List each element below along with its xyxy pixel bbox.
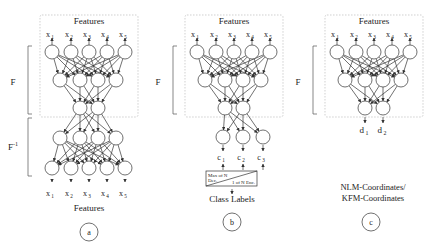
output-label-d2: d 2 <box>378 125 387 136</box>
bracket-F-inverse <box>28 118 32 176</box>
bracket-F-inverse-label: F-1 <box>8 141 18 152</box>
panel-label-b: b <box>230 218 234 227</box>
features-title: Features <box>74 16 105 26</box>
neuron-node <box>64 161 78 175</box>
panel-label-a: a <box>87 228 91 237</box>
bracket-F <box>173 46 177 114</box>
neuron-node <box>209 45 223 59</box>
neuron-node <box>218 101 232 115</box>
input-label-x5: x 5 <box>264 30 272 40</box>
neuron-node <box>330 45 344 59</box>
class-label-c3: c 3 <box>257 153 265 163</box>
neuron-node <box>64 45 78 59</box>
output-label-x3: x 3 <box>83 189 91 199</box>
neuron-node <box>73 73 87 87</box>
neuron-node <box>349 45 363 59</box>
neuron-node <box>358 73 372 87</box>
neuron-node <box>358 101 372 115</box>
neuron-node <box>376 73 390 87</box>
neuron-node <box>263 45 277 59</box>
input-label-x5: x 5 <box>404 30 412 40</box>
neuron-node <box>216 130 230 144</box>
one-of-n-enc-label: 1 of N Enc. <box>232 180 255 185</box>
neuron-node <box>100 161 114 175</box>
neuron-node <box>367 45 381 59</box>
neuron-node <box>100 45 114 59</box>
neuron-node <box>53 73 67 87</box>
neuron-node <box>109 131 123 145</box>
neuron-node <box>385 45 399 59</box>
input-label-x4: x 4 <box>386 30 394 40</box>
neuron-node <box>190 45 204 59</box>
features-bottom-title: Features <box>74 203 105 213</box>
nlm-coordinates-label: NLM-Coordinates/ <box>340 182 406 192</box>
input-label-x4: x 4 <box>101 30 109 40</box>
neuron-node <box>403 45 417 59</box>
input-label-x1: x 1 <box>191 30 199 40</box>
bracket-F <box>28 46 32 114</box>
neuron-node <box>245 45 259 59</box>
bracket-F-label: F <box>155 77 160 87</box>
panel-label-c: c <box>369 218 373 227</box>
bracket-F <box>313 46 317 114</box>
neuron-node <box>338 73 352 87</box>
neuron-node <box>91 73 105 87</box>
neuron-node <box>53 131 67 145</box>
output-label-d1: d 1 <box>360 125 369 136</box>
input-label-x5: x 5 <box>119 30 127 40</box>
neuron-node <box>376 101 390 115</box>
neuron-node <box>236 73 250 87</box>
input-label-x3: x 3 <box>368 30 376 40</box>
input-label-x1: x 1 <box>331 30 339 40</box>
neuron-node <box>73 101 87 115</box>
neuron-node <box>91 131 105 145</box>
output-label-x2: x 2 <box>65 189 73 199</box>
class-labels-title: Class Labels <box>209 194 255 204</box>
dec-label: Dec. <box>208 178 217 183</box>
features-title: Features <box>219 16 250 26</box>
neuron-node <box>254 73 268 87</box>
kfm-coordinates-label: KFM-Coordinates <box>342 193 404 203</box>
neuron-node <box>109 73 123 87</box>
neuron-node <box>118 161 132 175</box>
neuron-node <box>227 45 241 59</box>
neuron-node <box>256 130 270 144</box>
neuron-node <box>218 73 232 87</box>
neuron-node <box>198 73 212 87</box>
neuron-node <box>82 161 96 175</box>
neuron-node <box>236 130 250 144</box>
neuron-node <box>45 45 59 59</box>
input-label-x3: x 3 <box>83 30 91 40</box>
neuron-node <box>236 101 250 115</box>
neuron-node <box>82 45 96 59</box>
bracket-F-label: F <box>295 77 300 87</box>
neuron-node <box>73 131 87 145</box>
output-label-x5: x 5 <box>119 189 127 199</box>
neuron-node <box>91 101 105 115</box>
neuron-node <box>394 73 408 87</box>
input-label-x2: x 2 <box>210 30 218 40</box>
class-label-c2: c 2 <box>237 153 245 163</box>
class-label-c1: c 1 <box>217 153 225 163</box>
neuron-node <box>45 161 59 175</box>
input-label-x2: x 2 <box>65 30 73 40</box>
neuron-node <box>118 45 132 59</box>
input-label-x1: x 1 <box>46 30 54 40</box>
neural-network-diagram: Featuresx 1x 2x 3x 4x 5Fx 1x 2x 3x 4x 5F… <box>0 0 435 247</box>
bracket-F-label: F <box>10 77 15 87</box>
input-label-x2: x 2 <box>350 30 358 40</box>
features-title: Features <box>359 16 390 26</box>
output-label-x4: x 4 <box>101 189 109 199</box>
input-label-x3: x 3 <box>228 30 236 40</box>
input-label-x4: x 4 <box>246 30 254 40</box>
output-label-x1: x 1 <box>46 189 54 199</box>
